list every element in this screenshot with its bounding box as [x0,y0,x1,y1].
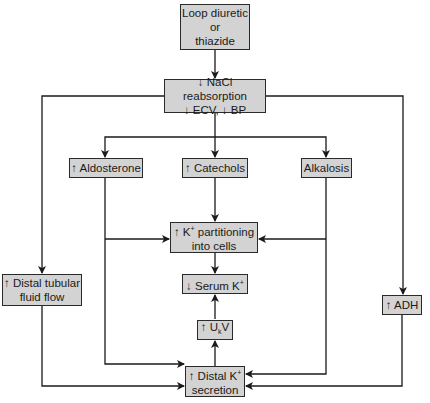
node-catechols-label: ↑ Catechols [185,161,245,175]
node-nacl-line1: ↓ NaCl reabsorption [165,75,265,103]
node-alkalosis: Alkalosis [301,158,352,178]
node-catechols: ↑ Catechols [182,158,248,178]
text: ↑ K [174,226,191,238]
node-nacl-reabsorption: ↓ NaCl reabsorption ↓ ECV, ↓ BP [164,79,266,113]
text: ↓ Serum K [186,279,240,291]
text: V [222,321,230,333]
node-alkalosis-label: Alkalosis [304,161,349,175]
node-loop-diuretic-line3: thiazide [195,34,235,48]
superscript: + [237,369,241,376]
node-distal-k-line1: ↑ Distal K+ [189,366,242,383]
node-loop-diuretic: Loop diuretic or thiazide [180,4,250,50]
text: ↑ Distal K [189,370,238,382]
node-adh-label: ↑ ADH [386,298,419,312]
text: partitioning [195,226,254,238]
node-distal-flow-line1: ↑ Distal tubular [4,276,80,290]
node-aldosterone-label: ↑ Aldosterone [71,161,141,175]
node-distal-k-secretion: ↑ Distal K+ secretion [185,366,245,397]
node-distal-tubular-flow: ↑ Distal tubular fluid flow [2,274,82,306]
connector-lines [0,0,430,403]
node-distal-flow-line2: fluid flow [20,290,65,304]
node-adh: ↑ ADH [382,295,422,315]
node-serum-k: ↓ Serum K+ [182,274,248,294]
node-loop-diuretic-line2: or [210,20,220,34]
node-serum-k-label: ↓ Serum K+ [186,276,244,293]
text: ↑ U [201,321,218,333]
node-k-partitioning-line2: into cells [192,239,237,253]
node-k-partitioning-line1: ↑ K+ partitioning [174,222,254,239]
node-distal-k-line2: secretion [192,383,239,397]
node-ukv-label: ↑ UkV [201,320,229,339]
node-loop-diuretic-line1: Loop diuretic [182,6,248,20]
node-aldosterone: ↑ Aldosterone [69,158,143,178]
node-nacl-line2: ↓ ECV, ↓ BP [184,103,246,117]
node-k-partitioning: ↑ K+ partitioning into cells [170,222,258,253]
superscript: + [240,279,244,286]
node-ukv: ↑ UkV [197,320,233,340]
